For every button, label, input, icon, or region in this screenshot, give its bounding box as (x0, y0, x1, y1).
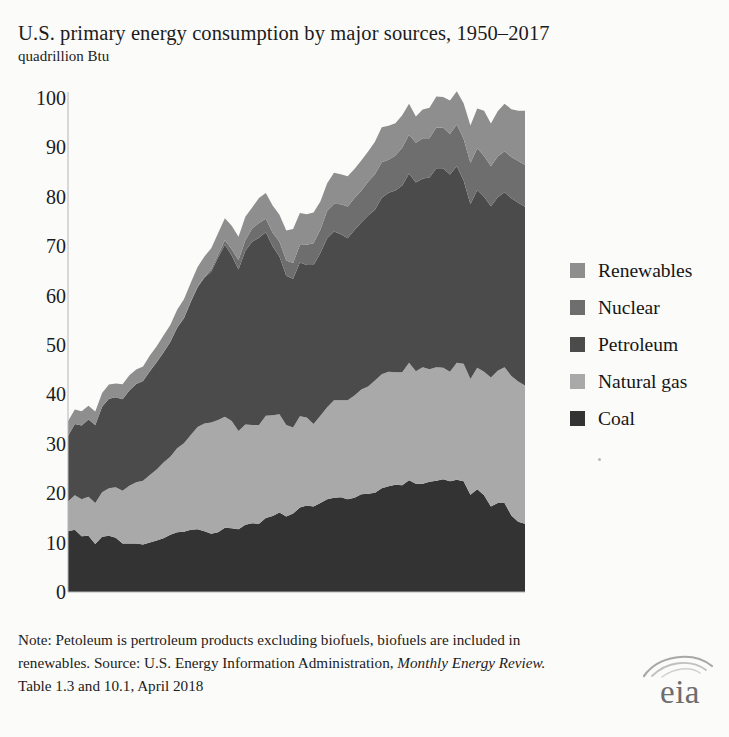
y-tick-30: 30 (2, 432, 66, 455)
note-source-title-cont: Review. (499, 654, 546, 671)
legend-swatch-coal (570, 411, 585, 426)
note-line-3-b: Table 1.3 and 10.1, April 2018 (18, 677, 203, 694)
legend-item-coal[interactable]: Coal (570, 400, 692, 437)
y-tick-10: 10 (2, 531, 66, 554)
eia-logo: eia (640, 652, 720, 714)
chart-legend: RenewablesNuclearPetroleumNatural gasCoa… (570, 252, 692, 437)
legend-item-petroleum[interactable]: Petroleum (570, 326, 692, 363)
y-tick-70: 70 (2, 235, 66, 258)
eia-logo-text: eia (640, 674, 720, 711)
y-tick-50: 50 (2, 334, 66, 357)
y-tick-20: 20 (2, 482, 66, 505)
y-tick-80: 80 (2, 185, 66, 208)
legend-item-natural-gas[interactable]: Natural gas (570, 363, 692, 400)
legend-label-coal: Coal (598, 408, 635, 430)
y-tick-40: 40 (2, 383, 66, 406)
decorative-speck (598, 458, 601, 461)
y-tick-90: 90 (2, 136, 66, 159)
legend-label-nuclear: Nuclear (598, 297, 660, 319)
legend-swatch-renewables (570, 263, 585, 278)
y-tick-0: 0 (2, 581, 66, 604)
legend-swatch-petroleum (570, 337, 585, 352)
legend-swatch-nuclear (570, 300, 585, 315)
chart-note: Note: Petoleum is pertroleum products ex… (18, 628, 558, 697)
legend-item-nuclear[interactable]: Nuclear (570, 289, 692, 326)
y-tick-60: 60 (2, 284, 66, 307)
legend-label-petroleum: Petroleum (598, 334, 678, 356)
y-tick-100: 100 (2, 87, 66, 110)
legend-label-renewables: Renewables (598, 260, 692, 282)
note-line-1: Note: Petoleum is pertroleum products ex… (18, 631, 505, 648)
legend-label-natural-gas: Natural gas (598, 371, 687, 393)
legend-item-renewables[interactable]: Renewables (570, 252, 692, 289)
note-source-title: Monthly Energy (397, 654, 495, 671)
legend-swatch-natural-gas (570, 374, 585, 389)
